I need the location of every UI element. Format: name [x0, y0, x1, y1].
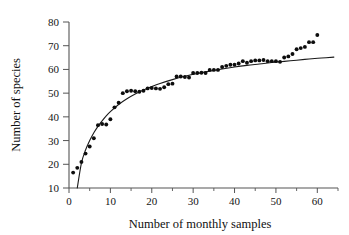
- data-point: [179, 75, 183, 79]
- data-point: [129, 89, 133, 93]
- data-point: [315, 33, 319, 37]
- y-tick-label-20: 20: [48, 158, 60, 170]
- data-point: [270, 59, 274, 63]
- data-point: [166, 82, 170, 86]
- data-point: [220, 65, 224, 69]
- data-point: [311, 40, 315, 44]
- data-point: [133, 89, 137, 93]
- species-accumulation-chart: 1020304050607080 0102030405060 Number of…: [0, 0, 349, 235]
- data-point: [71, 171, 75, 175]
- data-point: [237, 62, 241, 66]
- y-tick-label-10: 10: [48, 182, 60, 194]
- data-point: [183, 75, 187, 79]
- data-point: [108, 117, 112, 121]
- data-point: [154, 86, 158, 90]
- data-point: [303, 45, 307, 49]
- data-point: [253, 58, 257, 62]
- data-point: [175, 75, 179, 79]
- data-point: [142, 89, 146, 93]
- x-tick-label-10: 10: [105, 195, 117, 207]
- data-point: [266, 59, 270, 63]
- x-tick-label-0: 0: [66, 195, 72, 207]
- y-tick-label-80: 80: [48, 16, 60, 28]
- data-point: [84, 152, 88, 156]
- data-point: [199, 71, 203, 75]
- data-point: [187, 76, 191, 80]
- data-point: [208, 68, 212, 72]
- fitted-curve: [77, 57, 334, 188]
- data-point: [146, 86, 150, 90]
- data-point: [113, 105, 117, 109]
- x-tick-label-30: 30: [188, 195, 200, 207]
- data-point: [96, 123, 100, 127]
- data-point: [245, 61, 249, 65]
- data-point: [171, 82, 175, 86]
- y-tick-label-40: 40: [48, 111, 60, 123]
- data-point: [299, 46, 303, 50]
- data-point: [282, 56, 286, 60]
- x-axis-title: Number of monthly samples: [129, 217, 272, 231]
- data-point: [121, 91, 125, 95]
- data-point: [92, 136, 96, 140]
- data-point: [228, 63, 232, 67]
- data-point: [104, 123, 108, 127]
- data-point: [158, 87, 162, 91]
- data-point: [307, 40, 311, 44]
- data-point: [295, 47, 299, 51]
- data-point: [117, 101, 121, 105]
- scatter-points: [71, 33, 319, 174]
- data-point: [216, 68, 220, 72]
- data-point: [262, 58, 266, 62]
- data-point: [125, 89, 129, 93]
- data-point: [100, 122, 104, 126]
- data-point: [241, 59, 245, 63]
- y-axis-tick-labels: 1020304050607080: [48, 16, 60, 194]
- x-tick-label-20: 20: [146, 195, 158, 207]
- data-point: [137, 90, 141, 94]
- data-point: [224, 64, 228, 68]
- y-tick-label-70: 70: [48, 40, 60, 52]
- data-point: [75, 166, 79, 170]
- data-point: [233, 63, 237, 67]
- data-point: [79, 160, 83, 164]
- data-point: [195, 71, 199, 75]
- x-tick-label-40: 40: [229, 195, 241, 207]
- data-point: [191, 71, 195, 75]
- y-tick-label-50: 50: [48, 87, 60, 99]
- x-tick-label-50: 50: [270, 195, 282, 207]
- y-tick-label-60: 60: [48, 63, 60, 75]
- x-tick-label-60: 60: [312, 195, 324, 207]
- data-point: [162, 85, 166, 89]
- data-point: [257, 58, 261, 62]
- data-point: [150, 86, 154, 90]
- data-point: [291, 52, 295, 56]
- y-tick-label-30: 30: [48, 135, 60, 147]
- data-point: [286, 54, 290, 58]
- data-point: [88, 145, 92, 149]
- data-point: [212, 68, 216, 72]
- data-point: [274, 59, 278, 63]
- y-axis-title: Number of species: [9, 58, 23, 152]
- data-point: [204, 71, 208, 75]
- data-point: [278, 60, 282, 64]
- x-axis-tick-labels: 0102030405060: [66, 195, 323, 207]
- chart-canvas: 1020304050607080 0102030405060 Number of…: [0, 0, 349, 235]
- data-point: [249, 59, 253, 63]
